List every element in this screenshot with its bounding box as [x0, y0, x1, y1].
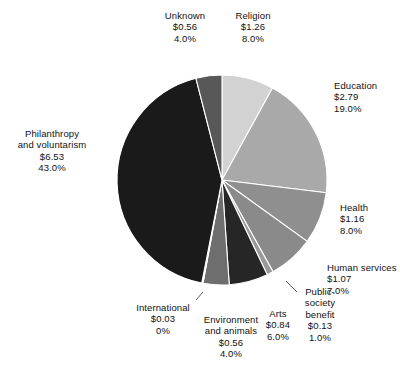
pie-label-philanthropy-and-voluntarism: Philanthropy and voluntarism $6.53 43.0%: [4, 128, 100, 174]
pie-label-international: International $0.03 0%: [131, 302, 195, 336]
pie-label-health-percent: 8.0%: [340, 225, 396, 236]
pie-label-arts-name: Arts: [258, 308, 298, 319]
pie-label-public-society-benefit: Public- society benefit $0.13 1.0%: [297, 286, 343, 343]
pie-label-environment-line2: and animals: [198, 325, 264, 336]
pie-label-education-name: Education: [334, 80, 396, 91]
pie-label-human-services-value: $1.07: [327, 273, 400, 284]
pie-label-environment-and-animals: Environment and animals $0.56 4.0%: [198, 314, 264, 360]
pie-label-philanthropy-line2: and voluntarism: [4, 139, 100, 150]
pie-label-unknown-name: Unknown: [152, 10, 218, 21]
pie-label-education-percent: 19.0%: [334, 103, 396, 114]
pie-label-arts: Arts $0.84 6.0%: [258, 308, 298, 342]
pie-label-public-society-line3: benefit: [297, 309, 343, 320]
pie-label-public-society-line2: society: [297, 297, 343, 308]
pie-label-environment-percent: 4.0%: [198, 348, 264, 359]
leader-line-international: [196, 292, 203, 300]
pie-label-arts-value: $0.84: [258, 319, 298, 330]
pie-label-health-value: $1.16: [340, 213, 396, 224]
pie-label-education: Education $2.79 19.0%: [334, 80, 396, 114]
pie-label-religion-percent: 8.0%: [222, 33, 284, 44]
pie-label-unknown: Unknown $0.56 4.0%: [152, 10, 218, 44]
pie-label-philanthropy-percent: 43.0%: [4, 162, 100, 173]
pie-label-arts-percent: 6.0%: [258, 331, 298, 342]
pie-label-religion-name: Religion: [222, 10, 284, 21]
pie-label-international-name: International: [131, 302, 195, 313]
pie-slices-group: [117, 75, 327, 285]
pie-label-health-name: Health: [340, 202, 396, 213]
pie-label-international-percent: 0%: [131, 325, 195, 336]
leader-line-public-society: [286, 281, 297, 292]
pie-label-religion-value: $1.26: [222, 21, 284, 32]
pie-label-public-society-percent: 1.0%: [297, 332, 343, 343]
pie-label-philanthropy-value: $6.53: [4, 151, 100, 162]
pie-label-unknown-value: $0.56: [152, 21, 218, 32]
pie-label-unknown-percent: 4.0%: [152, 33, 218, 44]
pie-label-education-value: $2.79: [334, 91, 396, 102]
pie-label-public-society-value: $0.13: [297, 320, 343, 331]
pie-label-environment-line1: Environment: [198, 314, 264, 325]
pie-chart-figure: Unknown $0.56 4.0% Religion $1.26 8.0% E…: [0, 0, 400, 368]
pie-label-health: Health $1.16 8.0%: [340, 202, 396, 236]
pie-label-public-society-line1: Public-: [297, 286, 343, 297]
pie-label-philanthropy-line1: Philanthropy: [4, 128, 100, 139]
pie-label-international-value: $0.03: [131, 313, 195, 324]
pie-label-environment-value: $0.56: [198, 337, 264, 348]
pie-label-religion: Religion $1.26 8.0%: [222, 10, 284, 44]
pie-label-human-services-name: Human services: [327, 262, 400, 273]
